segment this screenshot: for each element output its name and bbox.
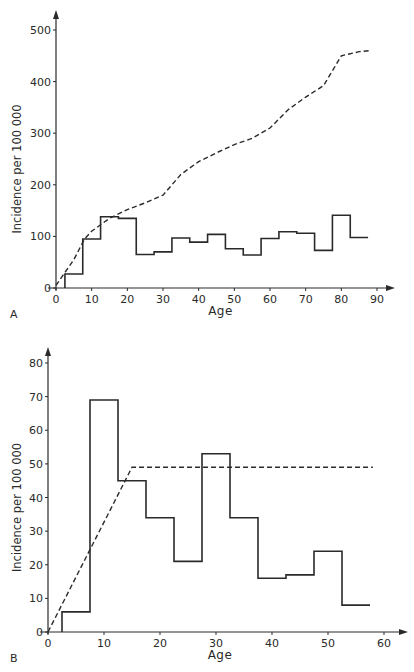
y-tick-label: 400 bbox=[30, 76, 51, 89]
cumulative-dashed-series bbox=[48, 467, 373, 632]
y-axis-label: Incidence per 100 000 bbox=[10, 104, 24, 233]
x-tick-label: 80 bbox=[334, 293, 348, 306]
x-tick-label: 50 bbox=[321, 637, 335, 650]
y-tick-label: 0 bbox=[36, 626, 43, 639]
x-axis-arrow-icon bbox=[386, 285, 395, 291]
y-tick-label: 70 bbox=[29, 391, 43, 404]
histogram-series bbox=[65, 215, 368, 288]
x-tick-label: 0 bbox=[53, 293, 60, 306]
y-tick-label: 50 bbox=[29, 458, 43, 471]
y-tick-label: 500 bbox=[30, 24, 51, 37]
x-tick-label: 40 bbox=[265, 637, 279, 650]
x-tick-label: 20 bbox=[120, 293, 134, 306]
x-axis-arrow-icon bbox=[399, 629, 408, 635]
y-tick-label: 0 bbox=[44, 282, 51, 295]
x-tick-label: 0 bbox=[45, 637, 52, 650]
x-tick-label: 40 bbox=[192, 293, 206, 306]
y-tick-label: 20 bbox=[29, 559, 43, 572]
panel-label: A bbox=[10, 308, 18, 321]
x-tick-label: 10 bbox=[97, 637, 111, 650]
x-tick-label: 60 bbox=[263, 293, 277, 306]
y-axis-arrow-icon bbox=[53, 10, 59, 19]
x-tick-label: 10 bbox=[85, 293, 99, 306]
y-tick-label: 40 bbox=[29, 492, 43, 505]
chart-canvas: 01020304050607080900100200300400500AgeIn… bbox=[0, 0, 414, 672]
x-tick-label: 60 bbox=[377, 637, 391, 650]
x-tick-label: 90 bbox=[370, 293, 384, 306]
y-tick-label: 10 bbox=[29, 592, 43, 605]
x-axis-label: Age bbox=[208, 648, 233, 662]
panel-label: B bbox=[10, 652, 18, 665]
y-axis-arrow-icon bbox=[45, 347, 51, 356]
y-tick-label: 200 bbox=[30, 179, 51, 192]
y-axis-label: Incidence per 100 000 bbox=[10, 443, 24, 572]
histogram-series bbox=[62, 400, 370, 632]
panel-b-chart: 010203040506001020304050607080AgeInciden… bbox=[10, 347, 408, 665]
figure: 01020304050607080900100200300400500AgeIn… bbox=[0, 0, 414, 672]
y-tick-label: 100 bbox=[30, 230, 51, 243]
y-tick-label: 60 bbox=[29, 424, 43, 437]
y-tick-label: 300 bbox=[30, 127, 51, 140]
x-tick-label: 70 bbox=[299, 293, 313, 306]
x-tick-label: 30 bbox=[156, 293, 170, 306]
y-tick-label: 80 bbox=[29, 357, 43, 370]
y-tick-label: 30 bbox=[29, 525, 43, 538]
x-axis-label: Age bbox=[208, 304, 233, 318]
panel-a-chart: 01020304050607080900100200300400500AgeIn… bbox=[10, 10, 395, 321]
x-tick-label: 20 bbox=[153, 637, 167, 650]
